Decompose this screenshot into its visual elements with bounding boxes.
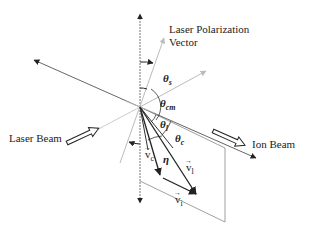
theta-s-label: θs <box>163 72 172 87</box>
lower-arc <box>129 142 140 144</box>
polarization-label-line2: Vector <box>169 36 198 48</box>
v-c-arrow-mark: → <box>144 144 151 152</box>
light-axis-2 <box>140 71 206 107</box>
laser-beam-arrow <box>65 124 101 148</box>
ion-beam-axis <box>140 107 256 158</box>
ion-beam-label: Ion Beam <box>252 138 296 150</box>
v-l-arrow-mark: → <box>185 157 192 165</box>
laser-beam-label: Laser Beam <box>9 132 62 144</box>
v-c-vector <box>140 107 160 175</box>
theta-s-arc <box>140 62 153 63</box>
v-i-arrow-mark: → <box>174 189 181 197</box>
laser-axis <box>34 60 140 107</box>
theta-c-label: θc <box>175 132 185 147</box>
theta-cm-label: θcm <box>160 97 176 112</box>
polarization-label-line1: Laser Polarization <box>169 23 250 35</box>
eta-label: η <box>163 153 169 165</box>
kinematics-diagram: Laser Polarization Vector Laser Beam Ion… <box>0 0 310 233</box>
light-axis-1 <box>120 38 164 163</box>
